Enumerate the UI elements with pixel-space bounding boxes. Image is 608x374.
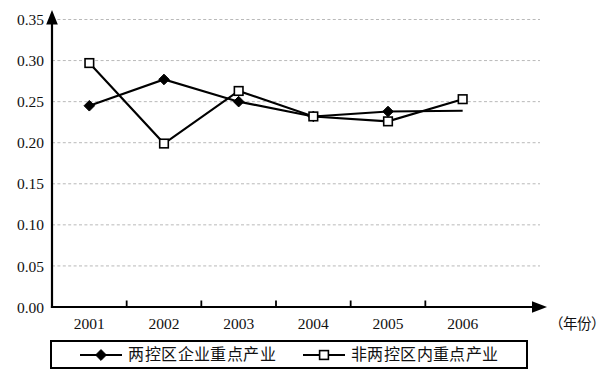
filled-diamond-icon — [79, 348, 123, 362]
series-line-2 — [89, 63, 462, 143]
legend-entry-series-1[interactable]: 两控区企业重点产业 — [79, 347, 276, 363]
x-axis-tick-label: 2004 — [298, 315, 329, 332]
data-point-square — [458, 95, 467, 104]
data-series — [84, 59, 467, 148]
x-axis-caption: （年份） — [549, 316, 605, 332]
x-axis-tick-labels: 200120022003200420052006 — [74, 315, 479, 332]
data-point-square — [85, 59, 94, 68]
y-axis-tick-label: 0.20 — [17, 134, 44, 151]
y-axis-tick-label: 0.05 — [17, 258, 44, 275]
legend-label-series-1: 两控区企业重点产业 — [128, 347, 276, 363]
x-axis-tick-label: 2003 — [223, 315, 254, 332]
x-axis-tick-label: 2001 — [74, 315, 105, 332]
y-axis-tick-labels: 0.000.050.100.150.200.250.300.35 — [17, 11, 44, 316]
legend-label-series-2: 非两控区内重点产业 — [351, 347, 499, 363]
chart-legend: 两控区企业重点产业 非两控区内重点产业 — [50, 340, 528, 369]
data-point-diamond — [159, 74, 170, 85]
x-axis-tick-label: 2005 — [373, 315, 404, 332]
x-axis-tick-label: 2002 — [149, 315, 180, 332]
open-square-icon — [302, 348, 346, 362]
x-axis-tick-label: 2006 — [447, 315, 478, 332]
y-axis-tick-label: 0.15 — [17, 175, 44, 192]
data-point-diamond — [233, 96, 244, 107]
y-axis-tick-label: 0.30 — [17, 52, 44, 69]
chart-figure: 0.000.050.100.150.200.250.300.35 2001200… — [0, 0, 608, 374]
y-axis-tick-label: 0.00 — [17, 299, 44, 316]
data-point-square — [160, 139, 169, 148]
data-point-square — [234, 87, 243, 96]
data-point-square — [309, 112, 318, 121]
line-chart-plot: 0.000.050.100.150.200.250.300.35 2001200… — [0, 0, 608, 340]
data-point-square — [384, 117, 393, 126]
y-axis-tick-label: 0.35 — [17, 11, 44, 28]
x-axis-arrowhead — [532, 301, 547, 313]
data-point-diamond — [383, 106, 394, 117]
series-line-1 — [89, 79, 462, 116]
legend-entry-series-2[interactable]: 非两控区内重点产业 — [302, 347, 499, 363]
y-axis-tick-label: 0.25 — [17, 93, 44, 110]
y-axis-arrowhead — [46, 10, 58, 25]
gridlines — [52, 20, 540, 266]
y-axis-tick-label: 0.10 — [17, 216, 44, 233]
y-axis — [46, 10, 58, 307]
